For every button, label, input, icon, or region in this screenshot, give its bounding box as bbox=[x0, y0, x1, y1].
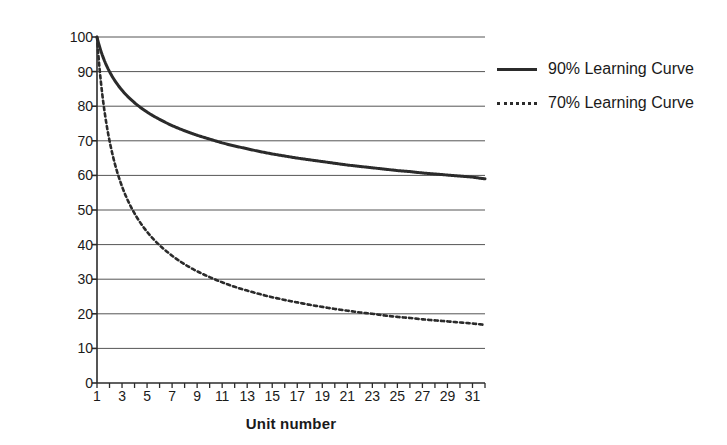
y-tick-label-layer: 0102030405060708090100 bbox=[49, 0, 93, 445]
legend-swatch-solid-icon bbox=[497, 63, 537, 75]
y-tick-label: 60 bbox=[53, 168, 93, 182]
learning-curve-chart: 0102030405060708090100 13579111315171921… bbox=[0, 0, 727, 445]
legend-label-90-percent: 90% Learning Curve bbox=[548, 60, 694, 78]
y-tick-label: 100 bbox=[53, 30, 93, 44]
y-tick-label: 30 bbox=[53, 272, 93, 286]
x-tick-label: 31 bbox=[457, 389, 487, 403]
legend-item-90-percent: 90% Learning Curve bbox=[497, 52, 722, 86]
y-tick-label: 10 bbox=[53, 341, 93, 355]
legend: 90% Learning Curve 70% Learning Curve bbox=[497, 52, 722, 120]
legend-item-70-percent: 70% Learning Curve bbox=[497, 86, 722, 120]
legend-swatch-dashed-icon bbox=[497, 97, 537, 109]
y-tick-label: 80 bbox=[53, 99, 93, 113]
y-tick-label: 20 bbox=[53, 307, 93, 321]
y-tick-label: 70 bbox=[53, 134, 93, 148]
x-axis-title: Unit number bbox=[97, 415, 485, 432]
x-tick-label-layer: 135791113151719212325272931 bbox=[0, 389, 727, 411]
series-line-70-percent bbox=[97, 37, 485, 325]
y-tick-label: 40 bbox=[53, 238, 93, 252]
legend-label-70-percent: 70% Learning Curve bbox=[548, 94, 694, 112]
y-tick-label: 0 bbox=[53, 376, 93, 390]
y-tick-label: 90 bbox=[53, 65, 93, 79]
series-line-90-percent bbox=[97, 37, 485, 179]
y-tick-label: 50 bbox=[53, 203, 93, 217]
